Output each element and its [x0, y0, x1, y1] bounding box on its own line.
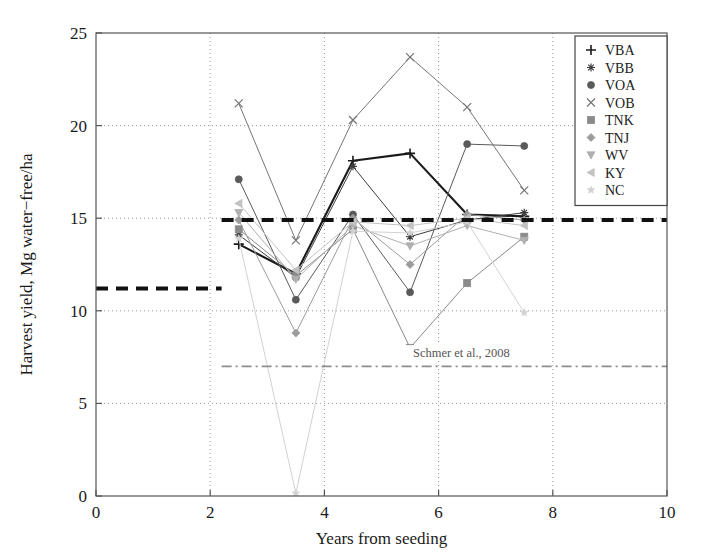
- reference-lines-layer: [96, 220, 667, 366]
- star-icon: [292, 489, 300, 496]
- asterisk-icon: [349, 162, 357, 170]
- data-point-marker: [521, 142, 528, 149]
- y-tick-label: 20: [70, 117, 87, 136]
- y-tick-label: 25: [70, 24, 87, 43]
- circle-icon: [521, 142, 528, 149]
- data-point-marker: [464, 141, 471, 148]
- x-tick-label: 8: [549, 503, 558, 522]
- circle-icon: [407, 289, 414, 296]
- data-point-marker: [587, 64, 595, 72]
- data-point-marker: [520, 309, 528, 316]
- annotations-layer: Schmer et al., 2008: [395, 345, 527, 361]
- x-axis-label: Years from seeding: [316, 529, 448, 548]
- data-point-marker: [235, 226, 242, 233]
- cross-icon: [520, 186, 528, 194]
- data-point-marker: [235, 235, 243, 242]
- cross-icon: [349, 116, 357, 124]
- data-point-marker: [406, 243, 414, 250]
- data-point-marker: [235, 176, 242, 183]
- circle-icon: [235, 176, 242, 183]
- series-line: [239, 153, 525, 273]
- triangle-down-icon: [406, 243, 414, 250]
- cross-icon: [235, 99, 243, 107]
- data-point-marker: [588, 82, 595, 89]
- data-point-marker: [292, 329, 300, 337]
- legend-label: VOA: [605, 78, 636, 93]
- series-line: [239, 144, 525, 300]
- square-icon: [464, 280, 471, 287]
- triangle-down-icon: [520, 237, 528, 244]
- data-series-layer: [234, 53, 530, 496]
- data-point-marker: [406, 53, 414, 61]
- data-point-marker: [235, 99, 243, 107]
- asterisk-icon: [520, 209, 528, 217]
- data-point-marker: [407, 289, 414, 296]
- circle-icon: [588, 82, 595, 89]
- data-point-marker: [292, 236, 300, 244]
- series-line: [239, 229, 525, 348]
- x-tick-label: 0: [92, 503, 101, 522]
- data-point-marker: [406, 229, 414, 236]
- data-point-marker: [464, 280, 471, 287]
- x-tick-label: 10: [659, 503, 676, 522]
- data-point-marker: [520, 237, 528, 244]
- legend-label: VBA: [605, 43, 635, 58]
- legend-label: TNJ: [605, 131, 630, 146]
- data-point-marker: [292, 296, 299, 303]
- y-axis-label: Harvest yield, Mg water−free/ha: [17, 153, 36, 375]
- legend-label: TNK: [605, 113, 634, 128]
- y-tick-label: 5: [79, 394, 88, 413]
- data-point-marker: [588, 117, 595, 124]
- series-line: [239, 166, 525, 277]
- diamond-icon: [292, 329, 300, 337]
- series-tnk: [235, 226, 528, 352]
- square-icon: [588, 117, 595, 124]
- x-tick-label: 4: [320, 503, 329, 522]
- asterisk-icon: [587, 64, 595, 72]
- series-line: [239, 203, 525, 270]
- triangle-left-icon: [235, 199, 242, 207]
- legend-label: KY: [605, 166, 625, 181]
- data-point-marker: [292, 489, 300, 496]
- annotation-schmer-label: Schmer et al., 2008: [413, 346, 510, 360]
- data-point-marker: [463, 103, 471, 111]
- legend-label: NC: [605, 183, 624, 198]
- data-point-marker: [520, 209, 528, 217]
- series-tnj: [235, 210, 529, 337]
- x-tick-label: 2: [206, 503, 215, 522]
- legend-label: VOB: [605, 96, 635, 111]
- data-point-marker: [235, 199, 242, 207]
- y-tick-label: 0: [79, 487, 88, 506]
- cross-icon: [292, 236, 300, 244]
- data-point-marker: [406, 222, 413, 230]
- y-tick-label: 10: [70, 302, 87, 321]
- series-line: [239, 57, 525, 240]
- circle-icon: [464, 141, 471, 148]
- square-icon: [235, 226, 242, 233]
- y-tick-label: 15: [70, 209, 87, 228]
- data-point-marker: [520, 186, 528, 194]
- star-icon: [520, 309, 528, 316]
- circle-icon: [292, 296, 299, 303]
- legend-label: WV: [605, 148, 628, 163]
- cross-icon: [406, 53, 414, 61]
- star-icon: [406, 229, 414, 236]
- triangle-left-icon: [406, 222, 413, 230]
- data-point-marker: [349, 162, 357, 170]
- data-point-marker: [349, 116, 357, 124]
- legend: VBAVBBVOAVOBTNKTNJWVKYNC: [575, 36, 667, 206]
- chart-root: Schmer et al., 2008 02468100510152025Yea…: [0, 0, 710, 559]
- harvest-yield-line-chart: Schmer et al., 2008 02468100510152025Yea…: [0, 0, 710, 559]
- x-tick-label: 6: [434, 503, 443, 522]
- cross-icon: [463, 103, 471, 111]
- legend-label: VBB: [605, 61, 634, 76]
- star-icon: [235, 235, 243, 242]
